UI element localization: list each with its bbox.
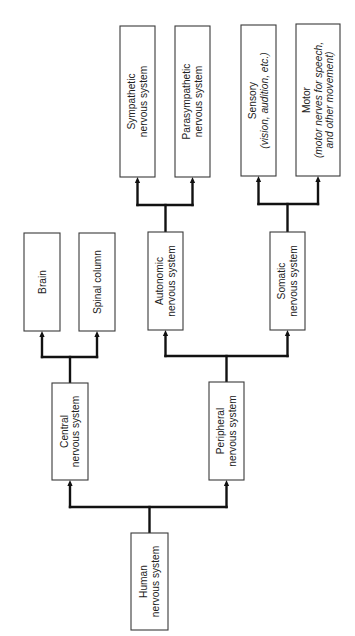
node-label-line: (vision, audition, etc.) <box>259 52 270 148</box>
node-sympathetic: Sympatheticnervous system <box>120 26 155 177</box>
node-brain: Brain <box>24 233 60 331</box>
node-label-line: Autonomic <box>154 257 165 305</box>
node-label-line: Sympathetic <box>126 73 137 129</box>
node-somatic: Somaticnervous system <box>270 232 305 330</box>
node-label-line: Parasympathetic <box>181 64 192 140</box>
arrow-icon <box>190 177 195 183</box>
arrow-icon <box>94 331 99 337</box>
node-label-line: Peripheral <box>215 408 226 454</box>
node-label-line: Sensory <box>247 81 258 119</box>
node-label-line: nervous system <box>227 395 238 466</box>
node-autonomic: Autonomicnervous system <box>148 232 183 330</box>
node-label-line: nervous system <box>288 245 299 316</box>
arrow-icon <box>67 480 72 486</box>
node-label-line: Somatic <box>276 263 287 300</box>
arrow-icon <box>224 480 229 486</box>
node-label-line: Central <box>59 415 70 448</box>
node-label-line: nervous system <box>70 396 81 467</box>
node-spinal: Spinal column <box>79 233 115 331</box>
arrow-icon <box>285 330 290 336</box>
node-label-line: Motor <box>301 86 312 113</box>
node-motor: Motor(motor nerves for speech,and other … <box>296 24 340 176</box>
node-label-line: nervous system <box>193 66 204 137</box>
node-label-line: nervous system <box>138 66 149 137</box>
node-parasympathetic: Parasympatheticnervous system <box>175 26 210 177</box>
arrow-icon <box>39 331 44 337</box>
node-label-line: nervous system <box>150 546 161 617</box>
node-label-line: (motor nerves for speech, <box>313 42 324 158</box>
node-peripheral: Peripheralnervous system <box>209 382 244 480</box>
node-label-line: Brain <box>37 270 48 294</box>
node-label-line: Spinal column <box>92 250 103 314</box>
node-central: Centralnervous system <box>52 383 88 480</box>
arrow-icon <box>315 176 320 182</box>
node-sensory: Sensory(vision, audition, etc.) <box>241 25 276 176</box>
nodes: Humannervous systemCentralnervous system… <box>24 24 340 630</box>
node-label-line: Human <box>138 565 149 598</box>
node-label-line: nervous system <box>166 245 177 316</box>
arrow-icon <box>135 177 140 183</box>
node-human: Humannervous system <box>131 533 168 630</box>
arrow-icon <box>163 330 168 336</box>
nervous-system-diagram: Humannervous systemCentralnervous system… <box>0 0 355 636</box>
arrow-icon <box>256 176 261 182</box>
node-label-line: and other movement) <box>324 52 335 149</box>
